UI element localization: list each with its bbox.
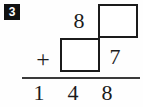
problem-number-badge: 3 — [4, 4, 20, 20]
bottom-addend-tens-blank-box[interactable] — [60, 38, 100, 72]
addition-problem-worksheet: 3 8 + 7 1 4 8 — [0, 0, 143, 107]
plus-operator: + — [32, 47, 54, 71]
bottom-addend-ones-digit: 7 — [104, 46, 126, 68]
sum-hundreds-digit: 1 — [28, 82, 50, 104]
sum-ones-digit: 8 — [96, 82, 118, 104]
top-addend-ones-blank-box[interactable] — [98, 4, 138, 38]
sum-divider-line — [22, 77, 140, 79]
top-addend-tens-digit: 8 — [68, 10, 90, 32]
sum-tens-digit: 4 — [62, 82, 84, 104]
